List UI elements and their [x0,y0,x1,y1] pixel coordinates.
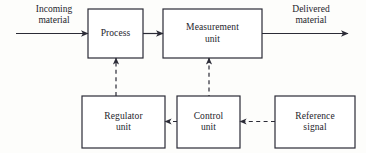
box-regulator-unit[interactable] [82,96,165,148]
box-measurement-unit[interactable] [163,9,262,58]
box-reference-signal[interactable] [275,96,355,148]
box-control-unit[interactable] [177,96,240,148]
label-incoming-material: Incoming material [18,4,90,26]
box-process[interactable] [88,9,143,58]
process-control-diagram: Process Measurement unit Regulator unit … [0,0,366,153]
label-delivered-material: Delivered material [272,4,350,26]
